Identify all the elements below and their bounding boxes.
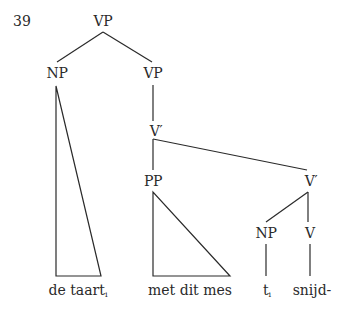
- edge-vbar-np: [266, 192, 308, 222]
- np-subject-triangle: [56, 86, 101, 276]
- leaf-text: met dit mes: [148, 282, 232, 298]
- syntax-tree-lines: [0, 0, 346, 313]
- node-v-head: V: [305, 226, 315, 240]
- index-subscript: i: [269, 290, 272, 299]
- node-np-subject: NP: [46, 66, 67, 80]
- leaf-de-taart: de taarti: [49, 283, 108, 302]
- leaf-text: snijd-: [293, 282, 332, 298]
- leaf-trace: ti: [263, 283, 271, 302]
- node-vp-root: VP: [94, 14, 113, 28]
- node-vbar-lower: V′: [305, 174, 318, 188]
- leaf-snijd: snijd-: [293, 283, 332, 297]
- leaf-met-dit-mes: met dit mes: [148, 283, 232, 297]
- node-vbar-upper: V′: [150, 124, 163, 138]
- index-subscript: i: [105, 290, 108, 299]
- node-pp: PP: [144, 174, 162, 188]
- pp-triangle: [153, 192, 230, 276]
- edge-vp-vp: [103, 32, 152, 62]
- node-vp-inner: VP: [144, 66, 163, 80]
- leaf-text: de taart: [49, 282, 105, 298]
- edge-vbar-vbar: [153, 139, 307, 170]
- edge-vp-np: [57, 32, 103, 62]
- node-np-trace: NP: [255, 226, 276, 240]
